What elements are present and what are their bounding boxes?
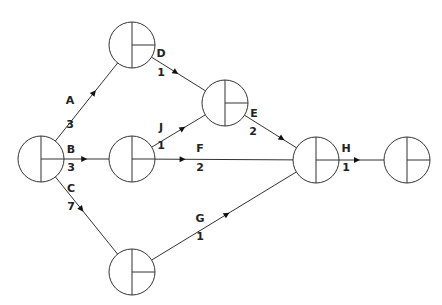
event-node-n7 <box>109 249 155 295</box>
arrowhead-icon <box>172 68 179 74</box>
activity-c: C7 <box>55 177 117 254</box>
activity-h: H1 <box>339 142 384 174</box>
activity-a: A3 <box>55 63 117 141</box>
arrowhead-icon <box>180 156 186 162</box>
activity-f: F2 <box>155 142 293 174</box>
activity-g: G1 <box>152 172 297 260</box>
activity-duration-label: 3 <box>67 161 75 174</box>
event-node-n3 <box>109 136 155 182</box>
activity-name-label: E <box>250 107 258 120</box>
activity-duration-label: 1 <box>157 139 165 152</box>
activity-e: E2 <box>244 107 296 148</box>
arrowhead-icon <box>278 135 285 141</box>
arrowhead-icon <box>354 157 360 163</box>
arrowhead-icon <box>223 213 230 219</box>
arrowhead-icon <box>179 127 186 133</box>
activity-duration-label: 1 <box>196 230 204 243</box>
activity-arrow-line <box>152 172 297 260</box>
arrowhead-icon <box>81 156 87 162</box>
event-node-n4 <box>202 80 248 126</box>
event-node-n6 <box>384 137 430 183</box>
activity-name-label: H <box>341 142 350 155</box>
activity-b: B3 <box>64 143 109 174</box>
activity-duration-label: 1 <box>342 161 350 174</box>
arrowhead-icon <box>90 90 96 97</box>
activity-d: D1 <box>152 47 206 91</box>
activity-duration-label: 7 <box>67 200 75 213</box>
event-node-n1 <box>18 136 64 182</box>
activity-arrow-line <box>155 159 293 160</box>
activity-name-label: D <box>156 47 165 60</box>
event-node-n5 <box>293 137 339 183</box>
event-node-n2 <box>109 22 155 68</box>
activity-duration-label: 1 <box>157 66 165 79</box>
activity-arrow-line <box>55 63 117 141</box>
activity-name-label: G <box>195 212 204 225</box>
activity-name-label: B <box>67 143 75 156</box>
arrowhead-icon <box>77 205 83 212</box>
activity-duration-label: 3 <box>66 118 74 131</box>
activity-duration-label: 2 <box>249 125 257 138</box>
network-diagram-svg: A3B3C7D1J1F2E2G1H1 <box>0 0 442 305</box>
activity-name-label: C <box>67 182 75 195</box>
network-diagram: A3B3C7D1J1F2E2G1H1 <box>0 0 442 305</box>
activity-name-label: J <box>158 121 163 134</box>
activity-name-label: F <box>196 142 204 155</box>
activity-duration-label: 2 <box>196 161 204 174</box>
activity-name-label: A <box>66 94 75 107</box>
activity-arrow-line <box>55 177 117 254</box>
